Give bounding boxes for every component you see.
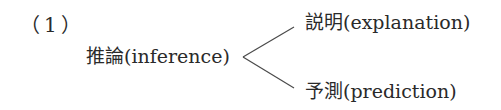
branch-line-prediction bbox=[243, 57, 294, 88]
branch-line-explanation bbox=[243, 27, 294, 57]
branch-node-explanation: 説明(explanation) bbox=[305, 11, 470, 33]
branch-node-prediction: 予測(prediction) bbox=[305, 80, 457, 102]
